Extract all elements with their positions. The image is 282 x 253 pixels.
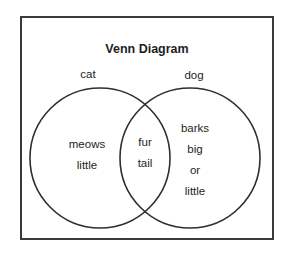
diagram-title: Venn Diagram bbox=[105, 42, 188, 56]
dog-only-item: barks bbox=[181, 122, 209, 134]
dog-only-item: or bbox=[190, 164, 200, 176]
venn-circles bbox=[0, 0, 282, 253]
dog-only-item: big bbox=[187, 143, 202, 155]
set-label-dog: dog bbox=[184, 69, 203, 81]
dog-only-item: little bbox=[185, 185, 205, 197]
intersection-item: tail bbox=[138, 157, 153, 169]
cat-only-item: little bbox=[77, 159, 97, 171]
set-label-cat: cat bbox=[80, 68, 95, 80]
cat-only-item: meows bbox=[69, 138, 105, 150]
intersection-item: fur bbox=[138, 136, 151, 148]
